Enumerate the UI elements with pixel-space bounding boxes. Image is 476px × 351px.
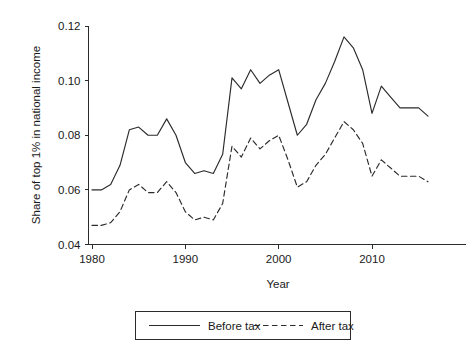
axis-lines: [89, 26, 467, 245]
y-axis-title-label: Share of top 1% in national income: [30, 46, 42, 224]
legend-label-before-tax: Before tax: [208, 320, 261, 332]
chart-figure: Share of top 1% in national income 0.040…: [0, 0, 476, 351]
x-tick-label: 2000: [266, 253, 292, 265]
chart-legend: Before tax After tax: [135, 311, 354, 339]
legend-label-after-tax: After tax: [311, 320, 354, 332]
line-chart: Share of top 1% in national income 0.040…: [0, 0, 476, 351]
y-tick-label: 0.08: [58, 129, 80, 141]
y-tick-label: 0.10: [58, 75, 80, 87]
y-tick-label: 0.04: [58, 239, 81, 251]
y-axis-ticks: 0.040.060.080.100.12: [58, 20, 88, 251]
y-tick-label: 0.06: [58, 184, 80, 196]
x-tick-label: 2010: [359, 253, 385, 265]
x-axis-title-label: Year: [266, 278, 289, 290]
data-series-group: [92, 37, 428, 225]
series-line-after-tax: [92, 122, 428, 226]
y-axis-title: Share of top 1% in national income: [30, 46, 42, 224]
y-tick-label: 0.12: [58, 20, 80, 32]
x-tick-label: 1990: [173, 253, 199, 265]
x-axis-title: Year: [266, 278, 289, 290]
x-axis-ticks: 1980199020002010: [79, 245, 385, 265]
x-tick-label: 1980: [79, 253, 105, 265]
